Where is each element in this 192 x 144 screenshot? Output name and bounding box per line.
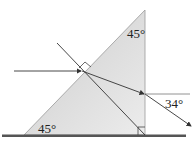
bottom-angle-label: 45° (38, 122, 56, 135)
diagram-canvas (0, 0, 192, 144)
top-angle-label: 45° (127, 27, 145, 40)
exit-angle-label: 34° (165, 97, 183, 110)
ground-surface (2, 135, 186, 138)
prism-diagram: 45° 45° 34° (0, 0, 192, 144)
